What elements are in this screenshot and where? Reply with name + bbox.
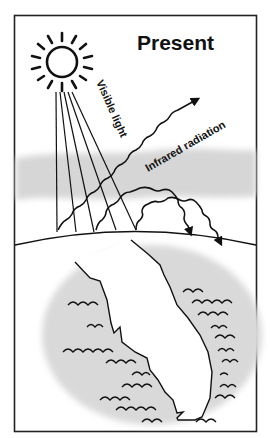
atmosphere-band <box>16 149 256 200</box>
diagram-title: Present <box>137 31 214 54</box>
greenhouse-diagram: Present Visible light Infrared radiation <box>0 0 270 438</box>
